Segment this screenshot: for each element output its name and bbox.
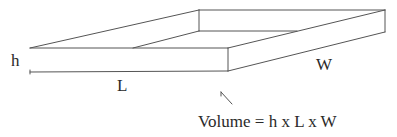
width-label: W <box>316 56 332 73</box>
volume-formula: Volume = h x L x W <box>198 113 337 130</box>
left-top-edge <box>30 10 199 48</box>
right-top-edge <box>228 10 385 48</box>
front-bottom-edge <box>30 71 228 72</box>
inner-left-edge <box>133 31 199 48</box>
height-label: h <box>11 52 20 69</box>
right-bottom-edge <box>228 32 385 71</box>
pointer-arrow <box>221 92 232 104</box>
length-label: L <box>117 77 127 94</box>
